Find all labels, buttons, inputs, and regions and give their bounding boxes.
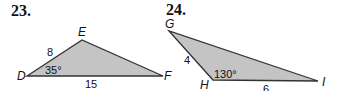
problem-number-24: 24. — [166, 1, 186, 18]
angle-d-measure: 35° — [45, 64, 62, 76]
vertex-h-label: H — [200, 78, 209, 91]
figure: 23. E D F 8 35° 15 24. G H I 4 130° 6 — [0, 0, 338, 91]
side-hi-length: 6 — [263, 83, 269, 91]
side-de-length: 8 — [47, 46, 53, 58]
angle-h-measure: 130° — [214, 68, 237, 80]
vertex-f-label: F — [164, 69, 172, 83]
side-gh-length: 4 — [184, 54, 190, 66]
vertex-e-label: E — [78, 25, 87, 39]
problem-number-23: 23. — [11, 2, 31, 19]
triangle-ghi — [169, 31, 318, 81]
vertex-g-label: G — [165, 17, 174, 31]
side-df-length: 15 — [85, 78, 97, 90]
vertex-i-label: I — [322, 75, 326, 89]
vertex-d-label: D — [17, 69, 26, 83]
